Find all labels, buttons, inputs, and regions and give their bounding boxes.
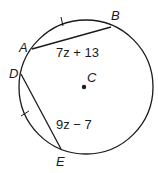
chord-ab-length: 7z + 13 xyxy=(56,45,99,60)
chord-de-length: 9z − 7 xyxy=(56,117,92,132)
label-d: D xyxy=(9,66,18,81)
label-b: B xyxy=(111,8,120,23)
label-a: A xyxy=(18,40,28,55)
label-c: C xyxy=(87,70,97,85)
label-e: E xyxy=(56,154,65,169)
circle-chord-diagram: B A D C E 7z + 13 9z − 7 xyxy=(0,0,158,173)
chord-de xyxy=(21,74,61,149)
center-point xyxy=(82,85,86,89)
